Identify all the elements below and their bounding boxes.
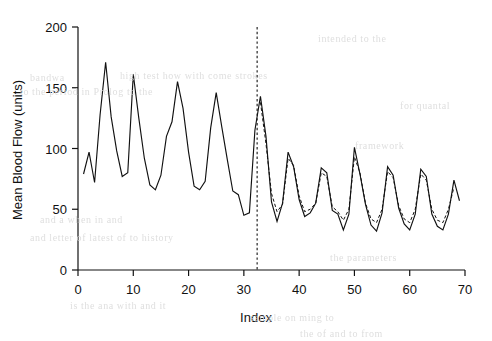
x-axis-ticks	[78, 270, 465, 276]
chart-series-layer	[84, 62, 460, 231]
x-tick-label: 20	[181, 282, 195, 297]
series-line-observed	[84, 62, 460, 231]
y-axis-ticks	[72, 27, 78, 270]
x-tick-label: 70	[458, 282, 472, 297]
y-tick-label: 150	[45, 81, 67, 96]
y-axis: 050100150200	[45, 20, 78, 278]
y-axis-title: Mean Blood Flow (units)	[10, 80, 25, 220]
y-tick-label: 200	[45, 20, 67, 35]
x-axis: 010203040506070	[74, 270, 472, 297]
figure-container: intended to thebandwahigh test how with …	[0, 0, 492, 341]
blood-flow-line-chart: 050100150200 010203040506070 Mean Blood …	[0, 0, 492, 341]
y-axis-tick-labels: 050100150200	[45, 20, 67, 278]
x-tick-label: 50	[347, 282, 361, 297]
x-tick-label: 10	[126, 282, 140, 297]
x-tick-label: 40	[292, 282, 306, 297]
y-tick-label: 100	[45, 142, 67, 157]
x-tick-label: 60	[402, 282, 416, 297]
x-axis-tick-labels: 010203040506070	[74, 282, 472, 297]
x-tick-label: 30	[237, 282, 251, 297]
x-axis-title: Index	[240, 310, 272, 325]
y-tick-label: 50	[53, 202, 67, 217]
x-tick-label: 0	[74, 282, 81, 297]
y-tick-label: 0	[60, 263, 67, 278]
